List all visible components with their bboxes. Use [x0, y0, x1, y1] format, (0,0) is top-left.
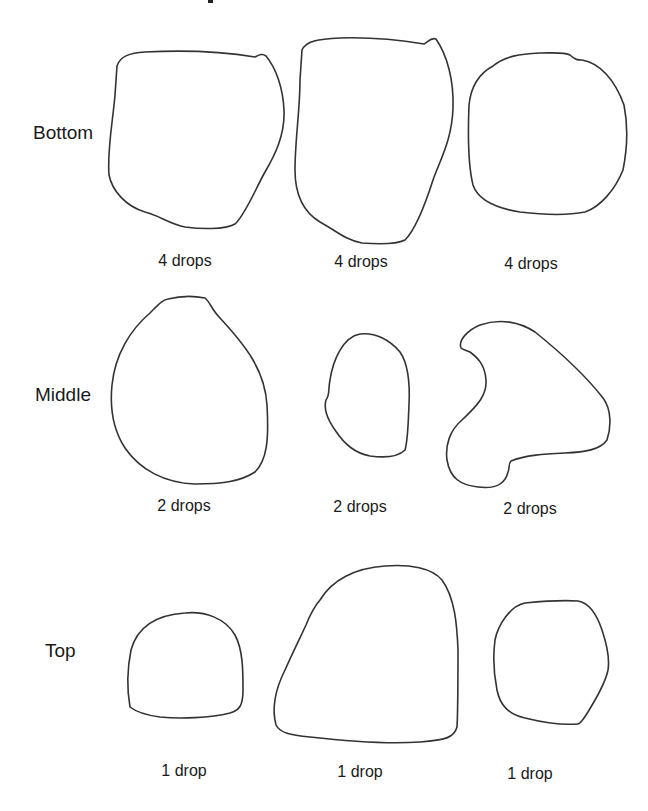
drop-count-label: 2 drops: [157, 497, 210, 515]
drop-count-label: 4 drops: [504, 255, 557, 273]
drop-count-label: 4 drops: [158, 252, 211, 270]
shape-outlines: [0, 0, 648, 811]
drop-shape-diagram: Bottom Middle Top 4 drops 4 drops 4 drop…: [0, 0, 648, 811]
outline-bottom-2: [295, 38, 453, 244]
outline-top-2: [274, 566, 458, 743]
outline-top-1: [128, 613, 243, 718]
drop-count-label: 1 drop: [161, 762, 206, 780]
outline-bottom-1: [109, 51, 284, 228]
row-label-top: Top: [45, 640, 76, 662]
drop-count-label: 1 drop: [507, 765, 552, 783]
row-label-bottom: Bottom: [33, 122, 93, 144]
outline-middle-3: [447, 321, 610, 487]
drop-count-label: 1 drop: [337, 763, 382, 781]
outline-top-3: [494, 601, 609, 725]
drop-count-label: 2 drops: [333, 498, 386, 516]
outline-middle-1: [111, 297, 267, 484]
drop-count-label: 4 drops: [334, 253, 387, 271]
outline-bottom-3: [468, 53, 626, 214]
outline-middle-2: [325, 334, 409, 457]
drop-count-label: 2 drops: [503, 500, 556, 518]
row-label-middle: Middle: [35, 384, 91, 406]
